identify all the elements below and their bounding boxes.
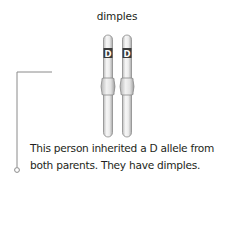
allele-label-right: D: [123, 49, 130, 59]
centromere-right: [120, 78, 134, 95]
caption: This person inherited a D allele from bo…: [30, 140, 214, 174]
caption-line-2: both parents. They have dimples.: [30, 157, 214, 174]
leader-end-circle: [15, 168, 20, 173]
caption-line-1: This person inherited a D allele from: [30, 140, 214, 157]
allele-label-left: D: [104, 49, 111, 59]
centromere-left: [101, 78, 115, 95]
